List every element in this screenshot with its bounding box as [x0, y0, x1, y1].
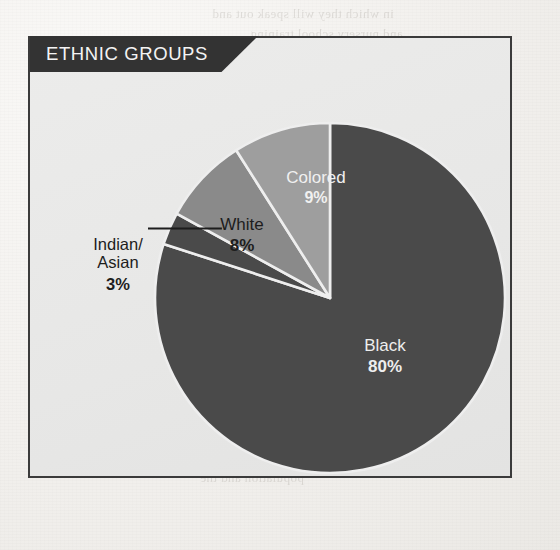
scanned-page: in which they will speak out andand nurs… — [0, 0, 560, 550]
bleed-through-line: in which they will speak out and — [212, 6, 394, 22]
chart-panel: Black 80% Colored 9% White 8% Indian/ As… — [28, 36, 512, 478]
panel-title: ETHNIC GROUPS — [30, 43, 208, 65]
pie-chart-svg — [30, 38, 514, 480]
panel-title-banner: ETHNIC GROUPS — [30, 36, 258, 72]
pie-chart: Black 80% Colored 9% White 8% Indian/ As… — [30, 38, 510, 476]
